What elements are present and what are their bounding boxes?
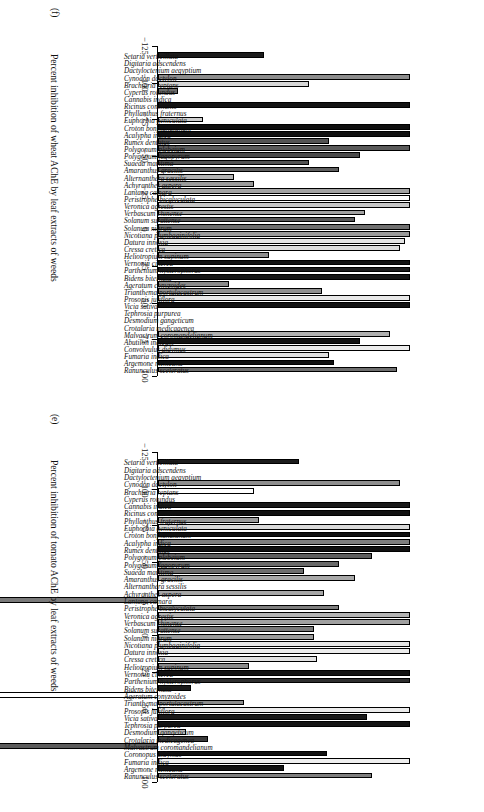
bar: [158, 524, 410, 530]
bar: [158, 274, 410, 280]
panel-e-axis-title: Percent inhibition of tomato AChE by lea…: [49, 460, 60, 692]
bar: [158, 367, 397, 373]
bar: [158, 634, 314, 640]
bar: [158, 202, 410, 208]
bar: [158, 145, 410, 151]
bar: [158, 131, 410, 137]
bar: [158, 619, 410, 625]
bar: [158, 773, 372, 779]
bar: [158, 210, 365, 216]
bar: [158, 102, 410, 108]
bar-category-label: Ranunculus sceleratus: [124, 773, 189, 781]
bar: [158, 352, 329, 358]
bar: [158, 195, 410, 201]
bar: [158, 138, 329, 144]
bar: [158, 302, 410, 308]
bar: [158, 260, 410, 266]
bar: [158, 217, 355, 223]
panel-e: −125−100−75−50−250255075100Setaria verti…: [0, 406, 484, 812]
bar: [158, 160, 309, 166]
bar: [158, 510, 410, 516]
bar: [158, 167, 339, 173]
bar: [158, 338, 360, 344]
bar: [158, 751, 327, 757]
bar-category-label: Ranunculus sceleratus: [124, 367, 189, 375]
bar: [158, 459, 299, 465]
axis-tick: [152, 452, 157, 453]
panel-f-tag: (f): [50, 8, 60, 17]
bar: [158, 568, 304, 574]
panel-f-axis-title: Percent inhibition of wheat AChE by leaf…: [49, 54, 60, 282]
bar: [158, 656, 317, 662]
bar: [158, 345, 410, 351]
bar: [158, 714, 367, 720]
bar: [158, 670, 410, 676]
panel-f-plot-area: −125−100−75−50−250255075100Setaria verti…: [106, 0, 458, 406]
bar: [158, 360, 334, 366]
bar: [158, 224, 410, 230]
bar: [158, 532, 410, 538]
bar: [158, 480, 400, 486]
bar: [158, 721, 410, 727]
bar: [158, 188, 410, 194]
panel-e-tag: (e): [50, 414, 60, 424]
bar: [158, 502, 410, 508]
bar: [158, 74, 410, 80]
bar: [158, 626, 314, 632]
bar: [158, 124, 410, 130]
bar: [158, 553, 372, 559]
panel-f: −125−100−75−50−250255075100Setaria verti…: [0, 0, 484, 406]
bar: [158, 575, 355, 581]
bar: [158, 590, 324, 596]
bar: [158, 238, 405, 244]
bar: [158, 707, 410, 713]
axis-tick: [152, 46, 157, 47]
panel-e-plot-area: −125−100−75−50−250255075100Setaria verti…: [106, 406, 458, 812]
bar: [158, 612, 410, 618]
bar: [158, 245, 400, 251]
bar: [158, 546, 410, 552]
axis-tick: [152, 376, 157, 377]
figure-page: −125−100−75−50−250255075100Setaria verti…: [0, 0, 484, 812]
bar: [158, 539, 410, 545]
bar: [158, 648, 410, 654]
panel-f-container: −125−100−75−50−250255075100Setaria verti…: [0, 0, 484, 406]
bar: [158, 81, 309, 87]
panel-e-container: −125−100−75−50−250255075100Setaria verti…: [0, 406, 484, 812]
bar: [158, 758, 410, 764]
bar: [158, 295, 410, 301]
axis-tick: [152, 782, 157, 783]
